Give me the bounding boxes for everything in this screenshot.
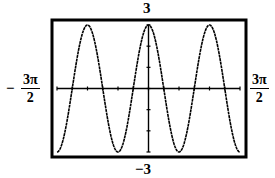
axes <box>57 25 240 152</box>
plot-canvas <box>0 0 275 178</box>
